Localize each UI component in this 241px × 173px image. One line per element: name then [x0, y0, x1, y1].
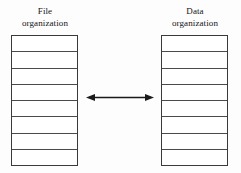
stack-row	[162, 117, 227, 133]
stack-row	[12, 69, 77, 85]
data-organization-label-line-1: Data	[153, 6, 237, 18]
stack-row	[12, 150, 77, 165]
stack-row	[12, 117, 77, 133]
diagram-canvas: File organization Data organization	[0, 0, 241, 173]
stack-row	[12, 134, 77, 150]
file-organization-stack	[11, 35, 78, 166]
stack-row	[162, 150, 227, 165]
data-organization-stack	[161, 35, 228, 166]
stack-row	[12, 36, 77, 52]
stack-row	[162, 101, 227, 117]
data-organization-label: Data organization	[153, 6, 237, 29]
file-organization-label-line-1: File	[3, 6, 87, 18]
stack-row	[162, 85, 227, 101]
file-organization-label-line-2: organization	[3, 18, 87, 30]
stack-row	[12, 52, 77, 68]
stack-row	[162, 36, 227, 52]
data-organization-label-line-2: organization	[153, 18, 237, 30]
stack-row	[162, 134, 227, 150]
file-organization-label: File organization	[3, 6, 87, 29]
stack-row	[162, 52, 227, 68]
stack-row	[162, 69, 227, 85]
double-headed-arrow-icon	[86, 91, 154, 104]
stack-row	[12, 85, 77, 101]
stack-row	[12, 101, 77, 117]
